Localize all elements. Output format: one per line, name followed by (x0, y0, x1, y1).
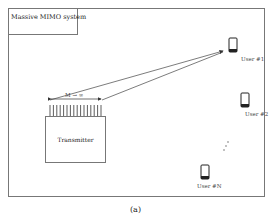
user-1-label: User #1 (241, 56, 264, 62)
transmitter-box: Transmitter (45, 116, 106, 163)
figure-caption: (a) (130, 205, 141, 214)
antenna-count-label: M → ∞ (65, 92, 83, 98)
beam-lower (102, 52, 223, 100)
ellipsis-dots (223, 141, 228, 150)
user-2-label: User #2 (245, 111, 268, 117)
user-n-label: User #N (197, 183, 222, 189)
antenna-array (50, 105, 101, 116)
diagram-graphics (0, 0, 276, 222)
transmitter-label: Transmitter (57, 136, 93, 143)
